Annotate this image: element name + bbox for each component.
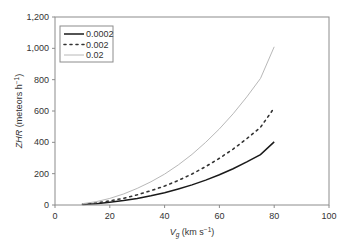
x-tick-label: 60	[214, 211, 224, 221]
chart: 02004006008001,0001,200020406080100 0.00…	[0, 0, 348, 247]
plot-area	[82, 47, 274, 205]
x-tick-label: 0	[52, 211, 57, 221]
y-tick-label: 400	[34, 137, 49, 147]
y-tick-label: 0	[44, 200, 49, 210]
x-tick-label: 100	[321, 211, 336, 221]
x-tick-label: 80	[269, 211, 279, 221]
legend: 0.00020.0020.02	[60, 26, 114, 62]
series-line-0.0002	[82, 142, 274, 205]
y-tick-label: 800	[34, 75, 49, 85]
y-axis-label: ZHR (meteors h−1)	[13, 74, 24, 149]
y-tick-label: 1,200	[26, 12, 49, 22]
legend-label: 0.002	[86, 40, 109, 50]
y-tick-label: 1,000	[26, 43, 49, 53]
x-tick-label: 40	[160, 211, 170, 221]
y-tick-label: 200	[34, 169, 49, 179]
legend-label: 0.02	[86, 50, 104, 60]
y-tick-label: 600	[34, 106, 49, 116]
series-line-0.02	[82, 47, 274, 204]
legend-label: 0.0002	[86, 29, 114, 39]
x-tick-label: 20	[105, 211, 115, 221]
x-axis-label: Vg (km s−1)	[170, 226, 215, 239]
